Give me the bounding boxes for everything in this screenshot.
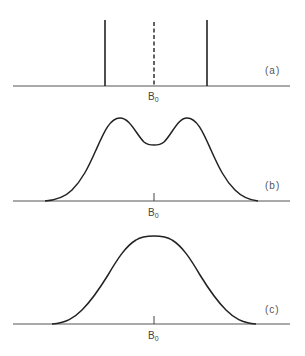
panel-label-b: (b) (265, 180, 280, 191)
doublet-curve-b (45, 118, 258, 201)
axis-label-a: B0 (148, 91, 159, 103)
panel-label-c: (c) (265, 304, 280, 315)
single-line-curve-c (52, 236, 256, 324)
spectrum-figure: B0 (a) B0 (b) B0 (c) (0, 0, 305, 356)
panel-c: B0 (c) (13, 236, 290, 342)
panel-label-a: (a) (265, 65, 280, 76)
axis-label-b: B0 (148, 207, 159, 219)
axis-label-c: B0 (148, 330, 159, 342)
panel-a: B0 (a) (13, 20, 290, 103)
panel-b: B0 (b) (13, 118, 290, 219)
